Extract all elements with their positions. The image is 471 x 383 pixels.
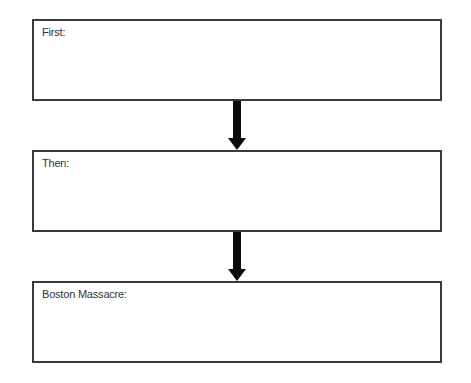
arrow-down-icon — [228, 232, 246, 281]
box-then[interactable]: Then: — [32, 150, 442, 232]
box-boston-massacre[interactable]: Boston Massacre: — [32, 281, 442, 363]
box-label-boston-massacre: Boston Massacre: — [42, 288, 127, 300]
box-label-then: Then: — [42, 157, 69, 169]
box-label-first: First: — [42, 26, 65, 38]
box-first[interactable]: First: — [32, 19, 442, 101]
arrow-down-icon — [228, 101, 246, 150]
